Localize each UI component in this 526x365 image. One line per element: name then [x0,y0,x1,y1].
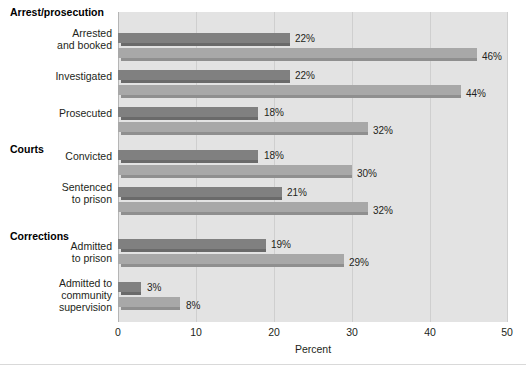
bar-shadow [121,292,141,295]
bar-admitted-prison-2000[interactable] [118,239,266,252]
gridline-50 [507,12,508,322]
row-label-arrested-booked-line1: Arrested [0,27,112,39]
bar-shadow [121,264,344,267]
bar-face [118,202,368,212]
bar-face [118,70,290,80]
value-sentenced-prison-2000: 21% [287,188,307,198]
x-tick-50: 50 [492,326,522,338]
bar-face [118,297,180,307]
bar-face [118,165,352,175]
section-header-arrest-prosecution: Arrest/prosecution [0,6,112,18]
bar-convicted-2000[interactable] [118,150,258,163]
bar-prosecuted-2000[interactable] [118,107,258,120]
value-investigated-2000: 22% [295,71,315,81]
bar-community-supervision-2010[interactable] [118,297,180,310]
bar-face [118,150,258,160]
bar-face [118,254,344,264]
value-arrested-booked-2010: 46% [482,52,502,62]
bar-shadow [121,212,368,215]
plot-area: 22% 46% 22% 44% 18% 32% 18% 30% 21% 32% … [118,12,508,322]
bar-arrested-booked-2010[interactable] [118,48,477,61]
bar-shadow [121,175,352,178]
bar-investigated-2010[interactable] [118,85,461,98]
bar-face [118,187,282,197]
value-convicted-2000: 18% [264,151,284,161]
bar-shadow [121,95,461,98]
row-label-community-line1: Admitted to [0,277,112,289]
bar-shadow [121,117,258,120]
row-label-community-line3: supervision [0,301,112,313]
value-admitted-prison-2010: 29% [349,258,369,268]
bar-prosecuted-2010[interactable] [118,122,368,135]
value-admitted-prison-2000: 19% [271,240,291,250]
bar-shadow [121,58,477,61]
bar-face [118,239,266,249]
bar-shadow [121,249,266,252]
row-label-sentenced-line2: to prison [0,193,112,205]
x-axis-title: Percent [118,343,508,355]
row-label-admitted-prison-line1: Admitted [0,240,112,252]
row-label-prosecuted: Prosecuted [0,107,112,119]
x-tick-20: 20 [259,326,289,338]
bar-face [118,122,368,132]
row-label-community-line2: community [0,289,112,301]
value-prosecuted-2010: 32% [373,126,393,136]
row-label-convicted: Convicted [0,150,112,162]
bar-face [118,85,461,95]
bar-convicted-2010[interactable] [118,165,352,178]
value-sentenced-prison-2010: 32% [373,206,393,216]
x-tick-10: 10 [181,326,211,338]
value-arrested-booked-2000: 22% [295,34,315,44]
bar-sentenced-prison-2010[interactable] [118,202,368,215]
bar-shadow [121,80,290,83]
bar-sentenced-prison-2000[interactable] [118,187,282,200]
bar-admitted-prison-2010[interactable] [118,254,344,267]
bar-shadow [121,197,282,200]
row-label-arrested-booked-line2: and booked [0,39,112,51]
row-label-sentenced-line1: Sentenced [0,181,112,193]
x-tick-30: 30 [337,326,367,338]
value-investigated-2010: 44% [466,89,486,99]
bar-face [118,33,290,43]
value-prosecuted-2000: 18% [264,108,284,118]
x-tick-40: 40 [415,326,445,338]
row-label-investigated: Investigated [0,70,112,82]
bar-community-supervision-2000[interactable] [118,282,141,295]
bar-face [118,48,477,58]
value-community-supervision-2000: 3% [147,283,161,293]
bar-face [118,107,258,117]
value-convicted-2010: 30% [357,169,377,179]
bar-arrested-booked-2000[interactable] [118,33,290,46]
bar-shadow [121,132,368,135]
bar-shadow [121,160,258,163]
row-label-admitted-prison-line2: to prison [0,252,112,264]
bar-shadow [121,43,290,46]
value-community-supervision-2010: 8% [186,301,200,311]
bar-shadow [121,307,180,310]
bar-chart: 22% 46% 22% 44% 18% 32% 18% 30% 21% 32% … [0,0,526,365]
bar-investigated-2000[interactable] [118,70,290,83]
x-tick-0: 0 [103,326,133,338]
bar-face [118,282,141,292]
